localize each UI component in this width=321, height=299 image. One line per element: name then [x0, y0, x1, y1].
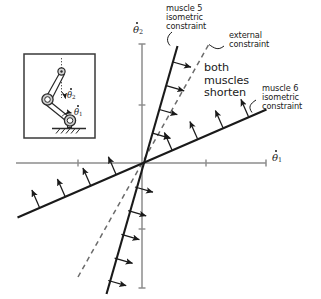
- inset-joint-base-inner: [67, 118, 73, 124]
- inset-theta2-label: θ2: [67, 90, 76, 100]
- inset-border: [24, 54, 95, 138]
- both-muscles-shorten-label: both muscles shorten: [204, 62, 249, 100]
- x-axis-label-symbol: θ: [272, 152, 278, 163]
- y-axis-label-subscript: 2: [139, 28, 143, 36]
- muscle5-hatch-arrows-upper: [153, 62, 192, 138]
- muscle6-hatch-arrows-right: [164, 99, 248, 150]
- inset-joint-elbow-inner: [45, 97, 51, 103]
- external-constraint-line: [78, 44, 209, 277]
- inset-theta1-label: θ1: [74, 107, 83, 117]
- muscle5-hatch-arrows-lower: [108, 187, 153, 286]
- external-constraint-leader-line: [209, 45, 224, 49]
- muscle6-constraint-label: muscle 6 isometric constraint: [262, 84, 302, 112]
- figure-canvas: muscle 5 isometric constraint external c…: [0, 0, 321, 299]
- inset-theta1-symbol: θ: [74, 107, 79, 117]
- y-axis-label: θ2: [133, 24, 143, 36]
- muscle6-leader-line: [250, 100, 256, 113]
- inset-figure: [24, 54, 95, 138]
- muscle5-constraint-label: muscle 5 isometric constraint: [166, 4, 206, 32]
- x-axis-label-subscript: 1: [278, 156, 282, 164]
- muscle5-constraint-group: [107, 46, 192, 294]
- muscle6-hatch-arrows-left: [32, 157, 116, 208]
- external-constraint-label: external constraint: [229, 31, 269, 49]
- inset-joint-distal-hub: [60, 70, 62, 72]
- inset-theta2-subscript: 2: [72, 94, 76, 100]
- x-axis-label: θ1: [272, 152, 282, 164]
- inset-theta1-subscript: 1: [79, 111, 83, 117]
- y-axis-label-symbol: θ: [133, 24, 139, 35]
- diagram-svg: [0, 0, 321, 299]
- inset-theta2-symbol: θ: [67, 90, 72, 100]
- muscle5-leader-line: [168, 32, 172, 46]
